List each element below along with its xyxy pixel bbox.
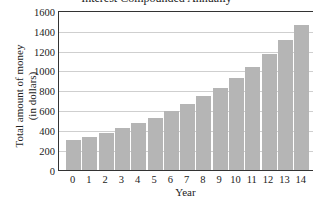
x-tick-label: 14 [295, 174, 306, 185]
bar-year-7 [180, 104, 195, 170]
bar-year-11 [245, 67, 260, 170]
x-tick-label: 8 [200, 174, 205, 185]
x-tick-label: 9 [217, 174, 222, 185]
bar-year-5 [148, 118, 163, 170]
y-tick-label: 1200 [0, 46, 55, 57]
x-tick-label: 11 [247, 174, 257, 185]
chart-title: Interest Compounded Annually [0, 0, 313, 6]
bar-year-4 [131, 123, 146, 170]
x-tick-label: 1 [86, 174, 91, 185]
bar-year-6 [164, 111, 179, 170]
bar-year-0 [66, 140, 81, 170]
plot-area [58, 11, 313, 171]
x-tick-label: 6 [168, 174, 173, 185]
y-tick-label: 1600 [0, 7, 55, 18]
bar-year-1 [82, 137, 97, 170]
x-tick-label: 12 [263, 174, 274, 185]
x-tick-label: 0 [70, 174, 75, 185]
x-axis-label: Year [58, 186, 313, 198]
x-tick-label: 7 [184, 174, 189, 185]
bar-year-8 [196, 96, 211, 170]
bar-year-12 [262, 54, 277, 170]
gridline [59, 52, 313, 53]
y-tick-label: 1400 [0, 26, 55, 37]
bar-year-9 [213, 88, 228, 170]
y-tick-label: 0 [0, 165, 55, 176]
bar-year-3 [115, 128, 130, 170]
y-tick-label: 800 [0, 86, 55, 97]
y-tick-label: 600 [0, 106, 55, 117]
x-tick-label: 10 [230, 174, 241, 185]
bar-year-2 [99, 133, 114, 170]
bar-year-13 [278, 40, 293, 170]
y-tick-label: 200 [0, 145, 55, 156]
gridline [59, 32, 313, 33]
bar-year-14 [294, 25, 309, 170]
bar-year-10 [229, 78, 244, 170]
x-tick-label: 3 [119, 174, 124, 185]
y-tick-label: 1000 [0, 66, 55, 77]
x-tick-label: 13 [279, 174, 290, 185]
x-tick-label: 4 [135, 174, 140, 185]
x-tick-label: 5 [151, 174, 156, 185]
y-tick-label: 400 [0, 125, 55, 136]
x-tick-label: 2 [102, 174, 107, 185]
